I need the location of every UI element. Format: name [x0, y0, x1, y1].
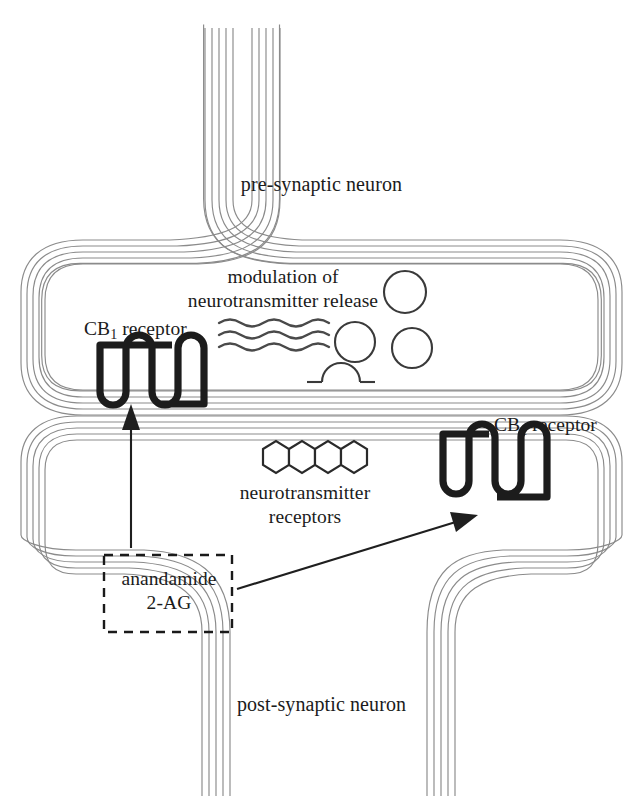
arrow-to-presynaptic-cb1 [122, 404, 140, 548]
signal-wave-group [219, 320, 329, 351]
label-nt-receptors-line2: receptors [269, 506, 341, 527]
label-modulation-line1: modulation of [227, 266, 338, 287]
wavy-signal-line [219, 320, 329, 327]
label-modulation-of-neurotransmitter-release: modulation of neurotransmitter release [148, 265, 418, 313]
label-cb1-upper-suffix: receptor [117, 318, 187, 339]
label-cb1-receptor-postsynaptic: CB1 receptor [494, 413, 597, 439]
wavy-signal-line [219, 344, 329, 351]
neurotransmitter-receptor-hexagon[interactable] [315, 441, 341, 473]
neurotransmitter-receptor-group[interactable] [263, 441, 367, 473]
label-nt-receptors-line1: neurotransmitter [240, 482, 370, 503]
neurotransmitter-receptor-hexagon[interactable] [341, 441, 367, 473]
label-cb1-upper-prefix: CB [84, 318, 110, 339]
neurotransmitter-receptor-hexagon[interactable] [263, 441, 289, 473]
diagram-canvas [0, 0, 643, 801]
synapse-diagram: pre-synaptic neuron modulation of neurot… [0, 0, 643, 801]
cb1-receptor-presynaptic[interactable] [100, 335, 204, 405]
label-pre-synaptic-neuron: pre-synaptic neuron [0, 172, 643, 196]
pre-synaptic-membrane [21, 24, 622, 415]
wavy-signal-line [219, 332, 329, 339]
label-endocannabinoids: anandamide 2-AG [104, 567, 234, 615]
label-modulation-line2: neurotransmitter release [188, 290, 378, 311]
label-anandamide: anandamide [121, 568, 216, 589]
label-post-synaptic-neuron: post-synaptic neuron [0, 692, 643, 716]
label-cb1-lower-prefix: CB [494, 414, 520, 435]
fusing-vesicle [322, 363, 360, 382]
label-cb1-lower-suffix: receptor [527, 414, 597, 435]
synaptic-vesicle [335, 322, 375, 362]
label-neurotransmitter-receptors: neurotransmitter receptors [190, 481, 420, 529]
synaptic-vesicle [392, 328, 432, 368]
label-cb1-receptor-presynaptic: CB1 receptor [84, 317, 187, 343]
label-2-ag: 2-AG [147, 592, 192, 613]
neurotransmitter-receptor-hexagon[interactable] [289, 441, 315, 473]
